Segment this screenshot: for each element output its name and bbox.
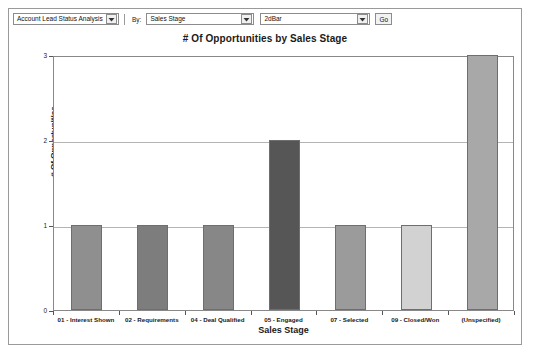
bar[interactable] [335, 225, 366, 310]
chart-type-select[interactable]: 2dBar [260, 13, 370, 25]
chevron-down-icon[interactable] [357, 14, 368, 24]
chart-type-select-value: 2dBar [261, 13, 357, 25]
x-axis-tick-mark [448, 311, 449, 315]
chevron-down-icon[interactable] [106, 14, 117, 24]
group-by-select[interactable]: Sales Stage [146, 13, 254, 25]
y-axis-tick-label: 3 [43, 52, 47, 60]
x-axis-tick-label: 02 - Requirements [125, 316, 179, 324]
group-by-select-value: Sales Stage [147, 13, 241, 25]
x-axis-tick-mark [514, 311, 515, 315]
bar[interactable] [71, 225, 102, 310]
report-panel: Account Lead Status Analysis By: Sales S… [8, 8, 522, 345]
x-axis-tick-mark [53, 311, 54, 315]
x-axis-tick-label: 09 - Closed/Won [391, 316, 439, 324]
x-axis-tick-label: 04 - Deal Qualified [191, 316, 245, 324]
y-axis: 0123 [9, 56, 53, 311]
bar-series [54, 57, 513, 310]
x-axis-tick-label: 01 - Interest Shown [58, 316, 115, 324]
bar[interactable] [401, 225, 432, 310]
go-button[interactable]: Go [375, 13, 392, 25]
group-by-label: By: [132, 16, 141, 23]
y-axis-tick-label: 2 [43, 137, 47, 145]
chart-title: # Of Opportunities by Sales Stage [9, 33, 521, 44]
x-axis-tick-mark [185, 311, 186, 315]
plot-area [53, 56, 514, 311]
chart-container: # Of Opportunities by Sales Stage # Of O… [9, 29, 521, 344]
x-axis-tick-label: (Unspecified) [461, 316, 500, 324]
toolbar-divider [124, 14, 125, 25]
report-select-value: Account Lead Status Analysis [14, 13, 106, 25]
bar[interactable] [137, 225, 168, 310]
bar[interactable] [203, 225, 234, 310]
x-axis-tick-mark [382, 311, 383, 315]
chevron-down-icon[interactable] [241, 14, 252, 24]
y-axis-tick-label: 1 [43, 222, 47, 230]
bar[interactable] [269, 140, 300, 310]
y-axis-tick-label: 0 [43, 307, 47, 315]
x-axis-tick-label: 07 - Selected [330, 316, 368, 324]
report-select[interactable]: Account Lead Status Analysis [13, 13, 119, 25]
x-axis-tick-mark [119, 311, 120, 315]
bar[interactable] [467, 55, 498, 310]
x-axis-title: Sales Stage [53, 325, 514, 335]
x-axis-tick-mark [251, 311, 252, 315]
x-axis-tick-label: 05 - Engaged [264, 316, 303, 324]
x-axis-tick-mark [316, 311, 317, 315]
report-toolbar: Account Lead Status Analysis By: Sales S… [9, 9, 521, 29]
